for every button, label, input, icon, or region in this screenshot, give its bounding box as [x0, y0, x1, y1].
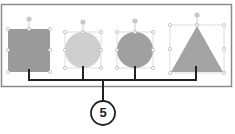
diagram-canvas: [0, 0, 235, 134]
callout-number: 5: [91, 104, 115, 122]
